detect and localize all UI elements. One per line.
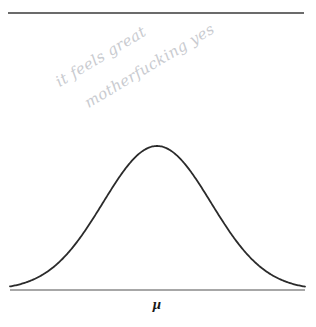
distribution-plot: [0, 0, 316, 327]
mu-axis-label: μ: [153, 297, 161, 312]
figure-canvas: μ it feels great motherfucking yes: [0, 0, 316, 327]
normal-distribution-curve: [10, 146, 305, 287]
mu-axis-label-container: μ: [0, 297, 316, 312]
